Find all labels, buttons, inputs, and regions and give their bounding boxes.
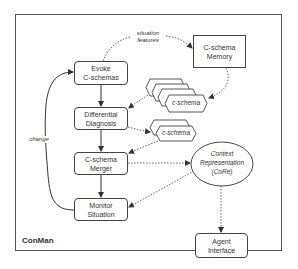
agent-line1: Agent: [208, 237, 235, 246]
evoke-line1: Evoke: [83, 64, 118, 73]
core-label: Context Representation (CoRe): [191, 149, 253, 176]
merger-line1: C-schema: [85, 155, 117, 164]
evoke-cschemas-box: Evoke C-schemas: [74, 61, 128, 85]
cschema-stack-1: [146, 79, 207, 112]
evoke-line2: C-schemas: [83, 73, 118, 82]
edge-evoke-memory-a: [103, 37, 130, 61]
edge-stack2-merger: [129, 141, 158, 153]
cschema-merger-box: C-schema Merger: [74, 152, 128, 175]
edge-core-monitor: [129, 171, 194, 207]
situation-label-line2: features: [130, 37, 166, 44]
edge-differential-stack2: [128, 127, 150, 132]
conman-diagram: Evoke C-schemas Differential Diagnosis C…: [0, 0, 298, 269]
differential-line2: Diagnosis: [84, 119, 117, 128]
monitor-line2: Situation: [87, 210, 114, 219]
merger-line2: Merger: [85, 164, 117, 173]
edge-evoke-memory-b: [166, 36, 192, 48]
change-label: change: [28, 136, 50, 143]
differential-line1: Differential: [84, 110, 117, 119]
edge-stack1-differential: [129, 95, 148, 108]
core-line1: Context: [191, 149, 253, 158]
memory-line2: Memory: [204, 52, 236, 61]
monitor-line1: Monitor: [87, 201, 114, 210]
monitor-situation-box: Monitor Situation: [74, 198, 128, 221]
situation-features-label: situation features: [130, 30, 166, 44]
core-line3: (CoRe): [191, 167, 253, 176]
situation-label-line1: situation: [130, 30, 166, 37]
cschema-stack2-label: c-schema: [160, 129, 192, 136]
differential-diagnosis-box: Differential Diagnosis: [74, 107, 128, 130]
core-line2: Representation: [191, 158, 253, 167]
diagram-title: ConMan: [22, 236, 54, 245]
agent-line2: Interface: [208, 246, 235, 255]
cschema-stack1-label: c-schema: [169, 99, 203, 106]
edge-memory-stack1: [209, 68, 228, 98]
agent-interface-box: Agent Interface: [195, 233, 248, 258]
memory-line1: C-schema: [204, 43, 236, 52]
cschema-memory-box: C-schema Memory: [193, 35, 246, 68]
